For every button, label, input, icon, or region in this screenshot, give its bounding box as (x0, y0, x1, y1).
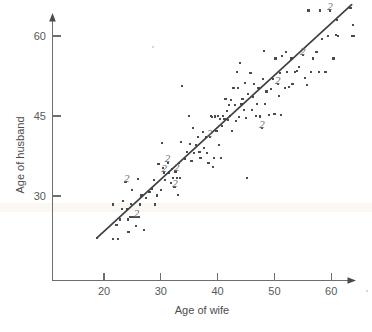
x-axis-title: Age of wife (175, 304, 229, 316)
duplicate-count-label: 2 (300, 45, 306, 57)
y-axis (49, 13, 56, 281)
x-tick-label: 50 (268, 285, 280, 297)
data-point (324, 71, 326, 73)
duplicate-count-label: 2 (161, 162, 167, 174)
data-point (121, 208, 123, 210)
data-point (135, 225, 137, 227)
duplicate-count-label: 2 (174, 161, 180, 173)
data-point (188, 115, 190, 117)
data-point (312, 57, 314, 59)
data-point (249, 72, 251, 74)
data-point (243, 109, 245, 111)
data-point (310, 71, 312, 73)
data-point (318, 71, 320, 73)
x-axis (53, 277, 357, 284)
data-point (291, 83, 293, 85)
data-point (307, 9, 309, 11)
data-point (273, 113, 275, 115)
data-point (222, 115, 224, 117)
data-point (239, 62, 241, 64)
data-point (153, 179, 155, 181)
data-point (127, 231, 129, 233)
data-point (202, 131, 204, 133)
data-point (255, 115, 257, 117)
data-point (286, 71, 288, 73)
data-point (337, 35, 339, 37)
data-point (226, 110, 228, 112)
data-point (244, 82, 246, 84)
data-point (246, 177, 248, 179)
data-point (211, 116, 213, 118)
data-point (262, 78, 264, 80)
data-point (192, 127, 194, 129)
x-tick-label: 60 (325, 285, 337, 297)
data-point (217, 115, 219, 117)
data-point (241, 98, 243, 100)
data-point (193, 152, 195, 154)
duplicate-count-label: 2 (275, 74, 281, 86)
data-point (186, 151, 188, 153)
data-point (218, 144, 220, 146)
data-point (237, 87, 239, 89)
plot-canvas: 604530 2030405060 22222222222 Age of wif… (0, 0, 372, 332)
data-point (270, 88, 272, 90)
duplicate-count-label: 2 (207, 127, 213, 139)
data-point (157, 163, 159, 165)
data-point (212, 166, 214, 168)
y-axis-arrowhead (49, 13, 56, 22)
data-point (353, 35, 355, 37)
data-point (298, 66, 300, 68)
data-point (127, 218, 129, 220)
y-tick-label: 45 (34, 110, 46, 122)
duplicate-count-label: 2 (327, 0, 333, 12)
data-point (327, 35, 329, 37)
x-axis-ticks: 2030405060 (98, 273, 337, 297)
x-axis-arrowhead (348, 277, 357, 284)
data-point (232, 87, 234, 89)
data-point (236, 71, 238, 73)
data-point (265, 90, 267, 92)
data-point (181, 85, 183, 87)
data-point (214, 115, 216, 117)
data-point (304, 77, 306, 79)
data-point (112, 238, 114, 240)
data-point (352, 24, 354, 26)
duplicate-count-label: 2 (124, 172, 130, 184)
data-point (180, 141, 182, 143)
duplicate-count-label: 2 (134, 207, 140, 219)
data-point (139, 203, 141, 205)
regression-line (97, 5, 351, 238)
data-point (224, 98, 226, 100)
data-point (306, 84, 308, 86)
data-point (112, 203, 114, 205)
y-axis-ticks: 604530 (34, 30, 61, 202)
data-point (137, 178, 139, 180)
data-point (234, 104, 236, 106)
data-point (264, 103, 266, 105)
data-point (206, 152, 208, 154)
data-point (278, 95, 280, 97)
duplicate-count-label: 2 (172, 177, 178, 189)
data-point (263, 50, 265, 52)
data-point (285, 51, 287, 53)
data-point (179, 177, 181, 179)
x-tick-label: 30 (155, 285, 167, 297)
data-point (160, 189, 162, 191)
data-point (238, 116, 240, 118)
data-point (219, 118, 221, 120)
data-point (315, 51, 317, 53)
data-point (268, 114, 270, 116)
data-point (189, 143, 191, 145)
data-point (213, 157, 215, 159)
data-point (256, 103, 258, 105)
data-point (332, 57, 334, 59)
data-point (203, 147, 205, 149)
data-point (129, 216, 131, 218)
data-point (351, 35, 353, 37)
data-point (207, 162, 209, 164)
data-point (235, 120, 237, 122)
data-point (177, 194, 179, 196)
data-point (197, 136, 199, 138)
x-tick-label: 40 (211, 285, 223, 297)
data-point (161, 142, 163, 144)
